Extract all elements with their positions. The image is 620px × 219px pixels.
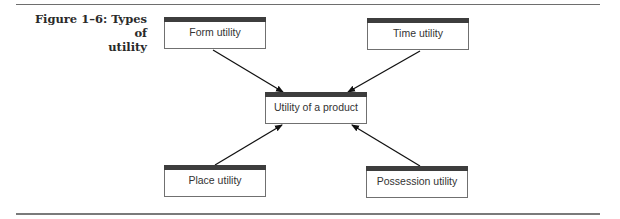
- arrow-time-to-product: [348, 51, 420, 92]
- node-label: Form utility: [165, 26, 265, 38]
- node-label: Utility of a product: [266, 101, 366, 113]
- arrow-place-to-product: [215, 125, 282, 165]
- node-place-utility: Place utility: [164, 165, 266, 197]
- node-label: Possession utility: [367, 175, 467, 187]
- node-header-bar: [164, 165, 266, 170]
- node-utility-of-a-product: Utility of a product: [265, 92, 367, 124]
- node-header-bar: [367, 18, 469, 23]
- node-label: Time utility: [368, 27, 468, 39]
- node-header-bar: [265, 92, 367, 97]
- node-header-bar: [164, 17, 266, 22]
- node-form-utility: Form utility: [164, 17, 266, 49]
- node-possession-utility: Possession utility: [366, 166, 468, 198]
- node-time-utility: Time utility: [367, 18, 469, 50]
- node-label: Place utility: [165, 174, 265, 186]
- bottom-rule: [16, 213, 600, 215]
- node-header-bar: [366, 166, 468, 171]
- arrow-possession-to-product: [352, 125, 420, 166]
- arrow-form-to-product: [213, 50, 283, 92]
